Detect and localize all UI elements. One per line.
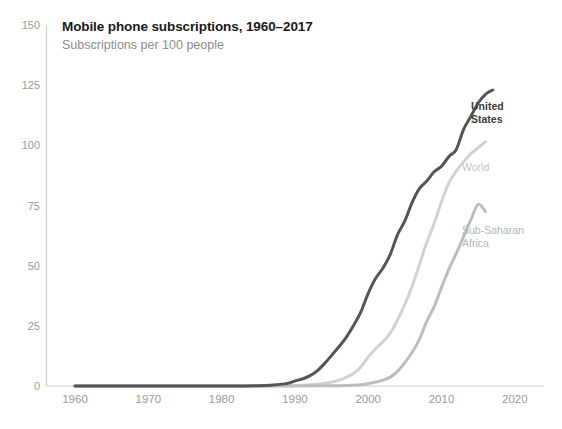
series-line-sub-saharan-africa	[75, 204, 485, 386]
y-tick-label: 25	[28, 320, 40, 332]
chart-container: 0255075100125150 19601970198019902000201…	[0, 0, 562, 429]
series-line-world	[75, 142, 485, 386]
x-tick-label: 1960	[62, 393, 88, 405]
x-tick-label: 1970	[136, 393, 162, 405]
y-tick-label: 125	[22, 79, 40, 91]
x-axis-group: 1960197019801990200020102020	[47, 386, 545, 405]
y-tick-label: 100	[22, 139, 40, 151]
x-tick-label: 2020	[502, 393, 528, 405]
line-chart-svg: 0255075100125150 19601970198019902000201…	[0, 0, 562, 429]
series-line-united-states	[75, 90, 493, 386]
y-tick-label: 150	[22, 19, 40, 31]
x-tick-label: 1980	[209, 393, 235, 405]
y-axis-group: 0255075100125150	[22, 19, 47, 392]
x-tick-labels: 1960197019801990200020102020	[62, 393, 527, 405]
x-tick-label: 2000	[355, 393, 381, 405]
x-tick-label: 1990	[282, 393, 308, 405]
y-tick-label: 0	[34, 380, 40, 392]
y-tick-label: 75	[28, 200, 40, 212]
x-tick-label: 2010	[429, 393, 455, 405]
y-tick-labels: 0255075100125150	[22, 19, 40, 392]
series-lines-group	[75, 90, 493, 386]
y-tick-label: 50	[28, 260, 40, 272]
